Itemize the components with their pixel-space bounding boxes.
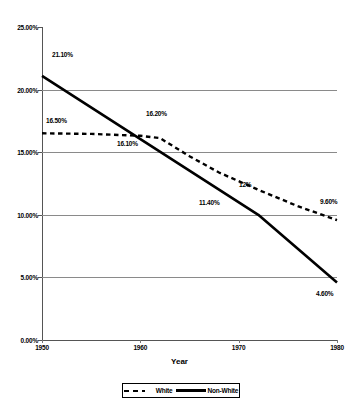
legend-label-white: White — [156, 387, 173, 394]
x-tick-1960 — [140, 340, 141, 343]
x-axis-title: Year — [0, 357, 359, 366]
legend-item-non-white: Non-White — [176, 387, 239, 394]
data-label-16-20: 16.20% — [146, 110, 167, 117]
series-non-white-line — [42, 76, 337, 283]
x-tick-1950 — [42, 340, 43, 343]
data-label-21-10: 21.10% — [52, 51, 73, 58]
x-tick-label-1980: 1980 — [317, 344, 357, 351]
data-label-16-10: 16.10% — [117, 140, 138, 147]
x-tick-1980 — [337, 340, 338, 343]
legend-label-non-white: Non-White — [208, 387, 239, 394]
y-tick-label-25: 25.00% — [0, 24, 38, 31]
x-axis-line — [42, 340, 337, 341]
y-tick-label-10: 10.00% — [0, 212, 38, 219]
data-label-16-50: 16.50% — [46, 117, 67, 124]
plot-area — [42, 27, 337, 340]
chart-legend: White Non-White — [122, 383, 240, 398]
data-label-11-40: 11.40% — [199, 199, 220, 206]
legend-solid-line-icon — [176, 389, 206, 392]
data-label-9-60: 9.60% — [320, 198, 337, 205]
x-tick-label-1950: 1950 — [22, 344, 62, 351]
y-tick-label-15: 15.00% — [0, 149, 38, 156]
legend-item-white: White — [124, 387, 173, 394]
data-label-12: 12% — [239, 181, 251, 188]
x-tick-label-1970: 1970 — [219, 344, 259, 351]
x-tick-1970 — [239, 340, 240, 343]
y-tick-label-20: 20.00% — [0, 87, 38, 94]
series-lines — [42, 27, 337, 340]
legend-dashed-line-icon — [124, 387, 154, 394]
x-tick-label-1960: 1960 — [120, 344, 160, 351]
chart-container: 25.00% 20.00% 15.00% 10.00% 5.00% 0.00% … — [0, 0, 359, 408]
y-tick-label-0: 0.00% — [0, 337, 38, 344]
y-tick-label-5: 5.00% — [0, 274, 38, 281]
series-white-line — [42, 133, 337, 220]
data-label-4-60: 4.60% — [316, 290, 333, 297]
